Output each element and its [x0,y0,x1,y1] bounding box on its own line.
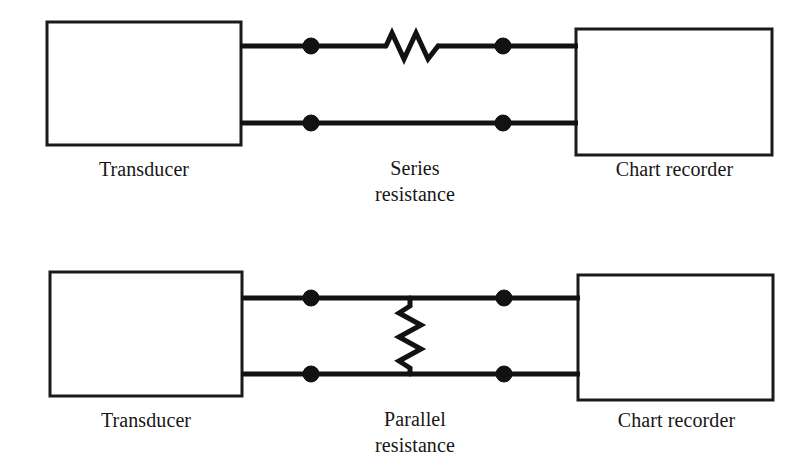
node-dot-parallel-top-right [496,290,512,306]
series-circuit-group [47,22,772,155]
node-dot-series-bottom-left [303,115,319,131]
label-transducer-series: Transducer [44,157,244,182]
node-dot-parallel-bottom-right [496,366,512,382]
node-dot-parallel-bottom-left [303,366,319,382]
transducer-box-parallel [50,272,242,396]
label-series-resistance-line1: Series [340,155,490,181]
label-parallel-resistance-line1: Parallel [340,406,490,432]
circuit-canvas [0,0,811,476]
node-dot-series-top-right [495,38,511,54]
parallel-resistor-symbol [399,298,421,374]
series-resistor-symbol [386,33,438,59]
label-series-resistance-line2: resistance [340,181,490,207]
label-chart-recorder-parallel: Chart recorder [574,408,779,433]
label-transducer-parallel: Transducer [46,408,246,433]
node-dot-parallel-top-left [303,290,319,306]
circuit-diagram-figure: Transducer Series resistance Chart recor… [0,0,811,476]
label-chart-recorder-series: Chart recorder [572,157,777,182]
transducer-box-series [47,22,241,145]
chart-recorder-box-series [576,29,772,155]
node-dot-series-bottom-right [495,115,511,131]
chart-recorder-box-parallel [578,275,773,400]
node-dot-series-top-left [303,38,319,54]
parallel-circuit-group [50,272,773,400]
label-parallel-resistance-line2: resistance [340,432,490,458]
